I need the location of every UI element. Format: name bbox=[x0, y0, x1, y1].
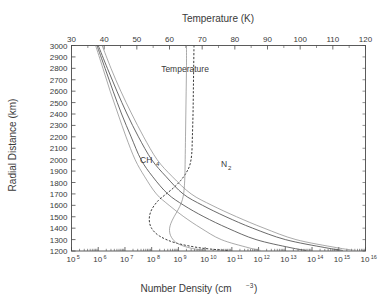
bottom-axis-title-sup: −3 bbox=[246, 282, 254, 289]
top-axis-title: Temperature (K) bbox=[182, 13, 254, 24]
temperature-density-profile-figure: Temperature (K) Radial Distance (km) Num… bbox=[0, 0, 389, 301]
bottom-tick-exponent: 8 bbox=[157, 254, 160, 260]
bottom-tick-exponent: 14 bbox=[317, 254, 323, 260]
bottom-tick-exponent: 10 bbox=[210, 254, 216, 260]
bottom-tick-label: 10 bbox=[254, 255, 263, 264]
annotation-ch4-sub: 4 bbox=[156, 161, 160, 167]
left-tick-label: 2200 bbox=[50, 133, 68, 142]
left-tick-label: 2400 bbox=[50, 110, 68, 119]
bottom-tick-label: 10 bbox=[147, 255, 156, 264]
left-tick-label: 1400 bbox=[50, 224, 68, 233]
bottom-tick-label: 10 bbox=[280, 255, 289, 264]
annotation-n2-sub: 2 bbox=[228, 165, 232, 171]
left-tick-label: 1600 bbox=[50, 201, 68, 210]
left-tick-label: 2300 bbox=[50, 121, 68, 130]
bottom-tick-exponent: 12 bbox=[264, 254, 270, 260]
bottom-tick-exponent: 11 bbox=[237, 254, 243, 260]
annotation-ch4: CH 4 bbox=[140, 155, 160, 167]
bottom-tick-label: 10 bbox=[93, 255, 102, 264]
left-tick-label: 1800 bbox=[50, 179, 68, 188]
left-tick-label: 2900 bbox=[50, 53, 68, 62]
bottom-axis-title: Number Density (cm −3 ) bbox=[140, 282, 257, 294]
left-tick-label: 2800 bbox=[50, 64, 68, 73]
bottom-axis-title-main: Number Density (cm bbox=[140, 283, 231, 294]
bottom-tick-label: 10 bbox=[120, 255, 129, 264]
bottom-tick-exponent: 15 bbox=[344, 254, 350, 260]
top-tick-label: 80 bbox=[230, 35, 239, 44]
bottom-tick-label: 10 bbox=[361, 255, 370, 264]
top-tick-label: 50 bbox=[132, 35, 141, 44]
data-curves bbox=[96, 46, 355, 251]
curve-CH4 bbox=[97, 46, 306, 251]
bottom-tick-label: 10 bbox=[307, 255, 316, 264]
top-tick-label: 110 bbox=[326, 35, 339, 44]
bottom-tick-exponent: 5 bbox=[77, 254, 80, 260]
left-tick-label: 2000 bbox=[50, 156, 68, 165]
annotation-ch4-main: CH bbox=[140, 155, 152, 165]
bottom-tick-label: 10 bbox=[227, 255, 236, 264]
bottom-tick-exponent: 7 bbox=[130, 254, 133, 260]
bottom-axis-title-tail: ) bbox=[254, 283, 257, 294]
curve-minor-species-b bbox=[96, 46, 261, 251]
left-tick-label: 1200 bbox=[50, 247, 68, 256]
bottom-tick-exponent: 13 bbox=[291, 254, 297, 260]
bottom-tick-exponent: 16 bbox=[371, 254, 377, 260]
top-axis-ticks: 30405060708090100110120 bbox=[67, 35, 373, 50]
bottom-tick-label: 10 bbox=[334, 255, 343, 264]
curve-minor-species-a bbox=[102, 46, 355, 251]
left-tick-label: 2600 bbox=[50, 87, 68, 96]
top-tick-label: 120 bbox=[359, 35, 373, 44]
left-tick-label: 1500 bbox=[50, 213, 68, 222]
left-tick-label: 1900 bbox=[50, 167, 68, 176]
bottom-tick-exponent: 6 bbox=[103, 254, 106, 260]
top-tick-label: 70 bbox=[198, 35, 207, 44]
left-tick-label: 1300 bbox=[50, 236, 68, 245]
top-tick-label: 90 bbox=[263, 35, 272, 44]
chart-svg: Temperature (K) Radial Distance (km) Num… bbox=[0, 0, 389, 301]
top-tick-label: 40 bbox=[100, 35, 109, 44]
bottom-tick-label: 10 bbox=[173, 255, 182, 264]
left-tick-label: 2100 bbox=[50, 144, 68, 153]
top-tick-label: 100 bbox=[293, 35, 307, 44]
annotation-n2: N 2 bbox=[221, 159, 232, 171]
bottom-tick-label: 10 bbox=[200, 255, 209, 264]
annotation-n2-main: N bbox=[221, 159, 227, 169]
y-axis-title: Radial Distance (km) bbox=[7, 99, 18, 192]
left-tick-label: 1700 bbox=[50, 190, 68, 199]
annotation-temperature: Temperature bbox=[161, 64, 209, 74]
left-tick-label: 3000 bbox=[50, 42, 68, 51]
top-tick-label: 30 bbox=[67, 35, 76, 44]
bottom-tick-exponent: 9 bbox=[184, 254, 187, 260]
curve-N2 bbox=[98, 46, 342, 251]
left-tick-label: 2500 bbox=[50, 99, 68, 108]
bottom-tick-label: 10 bbox=[67, 255, 76, 264]
left-tick-label: 2700 bbox=[50, 76, 68, 85]
curve-temperature-dashed bbox=[149, 46, 228, 251]
top-tick-label: 60 bbox=[165, 35, 174, 44]
plot-frame bbox=[72, 46, 366, 252]
